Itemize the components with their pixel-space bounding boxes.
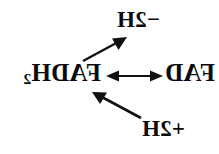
label-plus-2h: +2H xyxy=(142,117,185,140)
equilibrium-arrow xyxy=(106,71,163,82)
fadh2-subscript: 2 xyxy=(23,70,31,87)
mirrored-content-layer: −2H FADH2 FAD +2H xyxy=(0,0,219,154)
reduction-arrow xyxy=(92,92,141,118)
label-minus-2h: −2H xyxy=(117,8,160,31)
figure-canvas: −2H FADH2 FAD +2H xyxy=(0,0,219,154)
label-fad: FAD xyxy=(165,60,215,85)
fadh2-base: FADH xyxy=(31,59,101,86)
oxidation-arrow xyxy=(83,37,127,61)
label-fadh2: FADH2 xyxy=(23,60,101,85)
